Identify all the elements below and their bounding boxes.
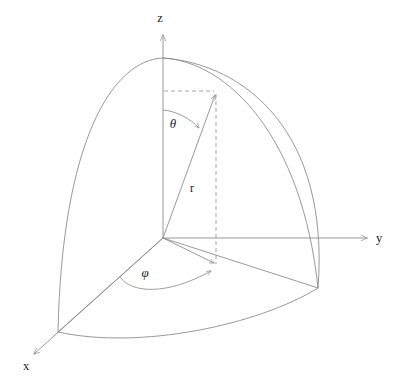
meridian-arc-xz (58, 58, 163, 332)
diagram-canvas: z y x r θ φ (0, 0, 403, 389)
floor-projection-ray (163, 238, 214, 263)
angle-arc-phi (120, 271, 211, 289)
axis-label-z: z (157, 11, 163, 25)
angle-label-theta: θ (170, 116, 177, 131)
floor-edge-y (163, 238, 318, 288)
axis-label-y: y (376, 231, 383, 245)
spherical-coordinates-figure: z y x r θ φ (0, 0, 403, 389)
angle-arc-theta (163, 110, 199, 128)
radius-label-r: r (190, 181, 194, 195)
equator-arc-xy (58, 288, 318, 338)
floor-edge-x (58, 238, 163, 332)
axis-label-x: x (23, 359, 30, 373)
angle-label-phi: φ (141, 265, 148, 280)
